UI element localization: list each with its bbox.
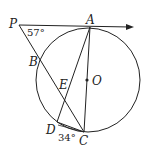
angle-c: 34° xyxy=(58,133,76,143)
label-c: C xyxy=(79,135,88,147)
label-a: A xyxy=(86,14,95,26)
label-b: B xyxy=(29,56,38,68)
angle-p: 57° xyxy=(27,28,45,38)
secant-pc xyxy=(19,25,84,132)
label-o: O xyxy=(92,75,102,87)
label-e: E xyxy=(59,79,68,91)
geometry-diagram: P 57° A B E O D 34° C xyxy=(0,0,148,150)
center-point xyxy=(85,78,88,81)
diagram-lines xyxy=(0,0,148,150)
arrowhead xyxy=(126,24,134,30)
label-p: P xyxy=(9,18,17,30)
label-d: D xyxy=(46,124,56,136)
